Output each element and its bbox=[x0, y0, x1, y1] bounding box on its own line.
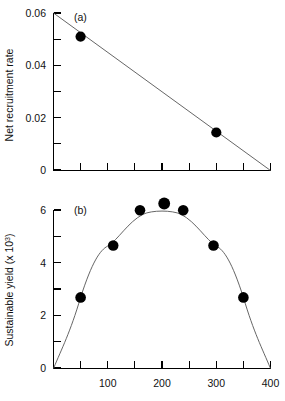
panel-a-y-ticks bbox=[54, 13, 61, 170]
panel-b-ytick-0: 0 bbox=[40, 362, 46, 374]
panel-b-xtick-100: 100 bbox=[99, 377, 117, 389]
panel-b-xtick-300: 300 bbox=[208, 377, 226, 389]
panel-b-marker-7 bbox=[238, 292, 249, 303]
panel-a-line-series bbox=[54, 13, 271, 171]
panel-b-curve-series bbox=[54, 211, 271, 368]
panel-a-ytick-0: 0 bbox=[40, 164, 46, 176]
panel-b-marker-6 bbox=[208, 240, 219, 251]
panel-b-marker-2 bbox=[108, 240, 119, 251]
panel-b-marker-3 bbox=[135, 205, 146, 216]
panel-a-y-tick-labels: 0 0.02 0.04 0.06 bbox=[26, 7, 47, 176]
panel-b-marker-5 bbox=[178, 205, 189, 216]
panel-b-xtick-200: 200 bbox=[153, 377, 171, 389]
panel-b-x-tick-labels: 100 200 300 400 bbox=[99, 377, 279, 389]
panel-b-label: (b) bbox=[74, 204, 87, 216]
panel-b-xtick-400: 400 bbox=[262, 377, 280, 389]
panel-b-x-ticks bbox=[81, 361, 271, 369]
panel-a-ytick-0.04: 0.04 bbox=[26, 59, 47, 71]
panel-b-marker-1 bbox=[75, 292, 86, 303]
panel-b-y-axis-title-tail: ) bbox=[3, 233, 15, 237]
panel-a-net-recruitment-rate: Net recruitment rate (a) 0 0.02 0.04 0.0… bbox=[0, 0, 285, 190]
panel-b-y-tick-labels: 0 2 4 6 bbox=[40, 204, 46, 374]
panel-a-label: (a) bbox=[74, 11, 87, 23]
panel-a-marker-1 bbox=[76, 31, 86, 41]
panel-b-ytick-6: 6 bbox=[40, 204, 46, 216]
panel-b-y-axis-title-main: Sustainable yield (x 10 bbox=[3, 241, 15, 347]
panel-a-marker-2 bbox=[211, 127, 221, 137]
panel-a-ytick-0.02: 0.02 bbox=[26, 112, 47, 124]
figure-container: Net recruitment rate (a) 0 0.02 0.04 0.0… bbox=[0, 0, 285, 401]
panel-a-y-axis-title: Net recruitment rate bbox=[3, 48, 15, 141]
panel-a-x-ticks bbox=[81, 163, 271, 171]
panel-b-sustainable-yield: Sustainable yield (x 103) (b) 0 2 4 6 bbox=[0, 190, 285, 401]
panel-b-data-markers bbox=[75, 198, 248, 303]
panel-a-ytick-0.06: 0.06 bbox=[26, 7, 47, 19]
panel-b-y-ticks bbox=[54, 210, 61, 368]
panel-b-ytick-4: 4 bbox=[40, 257, 46, 269]
panel-b-ytick-2: 2 bbox=[40, 309, 46, 321]
panel-b-marker-4 bbox=[158, 198, 170, 210]
panel-a-data-markers bbox=[76, 31, 222, 137]
panel-b-y-axis-title: Sustainable yield (x 103) bbox=[3, 233, 15, 346]
